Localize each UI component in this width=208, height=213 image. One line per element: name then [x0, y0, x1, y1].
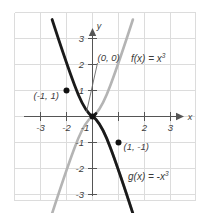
cubic-functions-plot: -3 -2 -1 2 3 3 2 1 -1 -2 -3 x y (0, 0) (… [0, 0, 208, 213]
point-1-neg1-marker [116, 140, 122, 146]
point-origin-marker [90, 114, 96, 120]
x-tick-label--3: -3 [36, 122, 45, 133]
function-g-label: g(x) = -x3 [128, 170, 169, 182]
point-pos1-label: (1, -1) [124, 141, 149, 152]
x-tick-label--2: -2 [62, 122, 71, 133]
point-neg1-label: (-1, 1) [34, 90, 59, 101]
x-axis-label: x [187, 112, 193, 122]
y-tick-label-3: 3 [79, 33, 85, 44]
x-tick-label-2: 2 [141, 122, 148, 133]
x-tick-label-3: 3 [168, 122, 174, 133]
function-g-name: g(x) = -x [128, 171, 166, 182]
x-tick-label--1: -1 [81, 122, 89, 133]
function-f-label: f(x) = x3 [131, 52, 166, 64]
y-tick-label--2: -2 [76, 163, 85, 174]
plot-background [0, 0, 208, 213]
function-f-name: f(x) = x [131, 53, 163, 64]
y-tick-label-2: 2 [78, 59, 85, 70]
y-tick-label--1: -1 [76, 137, 84, 148]
y-tick-label--3: -3 [76, 189, 85, 200]
function-g-exponent: 3 [165, 170, 169, 177]
y-axis-label: y [96, 21, 102, 31]
y-tick-label-1: 1 [79, 85, 84, 96]
origin-point-label: (0, 0) [98, 52, 120, 63]
graph-figure: -3 -2 -1 2 3 3 2 1 -1 -2 -3 x y (0, 0) (… [0, 0, 208, 213]
point-neg1-1-marker [64, 88, 70, 94]
function-f-exponent: 3 [162, 52, 166, 59]
